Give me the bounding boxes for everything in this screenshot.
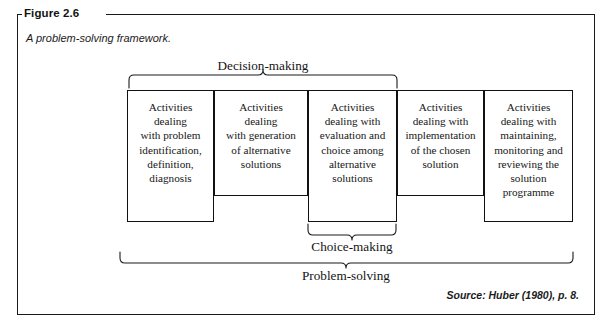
stage-box-evaluation-and-choice[interactable]: Activities dealing with evaluation and c… [308,90,397,222]
stage-box-label: Activities dealing with evaluation and c… [316,100,390,185]
stage-box-label: Activities dealing with maintaining, mon… [490,100,567,199]
figure-page: Figure 2.6 A problem-solving framework. … [0,0,607,333]
stage-box-label: Activities dealing with generation of al… [222,100,300,171]
bracket-label-problem-solving: Problem-solving [276,268,416,284]
stage-box-problem-identification[interactable]: Activities dealing with problem identifi… [127,90,214,222]
figure-number-label: Figure 2.6 [24,7,79,19]
stage-box-maintaining-monitoring-reviewing[interactable]: Activities dealing with maintaining, mon… [484,90,573,222]
figure-caption: A problem-solving framework. [26,32,171,44]
source-attribution: Source: Huber (1980), p. 8. [447,289,579,301]
stage-box-label: Activities dealing with problem identifi… [135,100,205,185]
stage-box-label: Activities dealing with implementation o… [401,100,479,171]
stage-box-implementation[interactable]: Activities dealing with implementation o… [397,90,484,196]
bracket-label-choice-making: Choice-making [287,239,417,255]
stage-box-generation-of-alternatives[interactable]: Activities dealing with generation of al… [214,90,308,196]
bracket-label-decision-making: Decision-making [193,58,333,74]
